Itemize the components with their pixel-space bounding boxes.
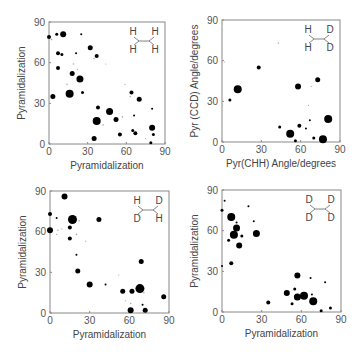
data-point (75, 52, 77, 54)
data-point (68, 215, 77, 224)
data-point (96, 105, 100, 109)
data-point (236, 243, 242, 249)
data-point (137, 97, 142, 102)
y-tick-label: 0 (40, 308, 46, 319)
data-point (320, 309, 323, 312)
data-point (145, 138, 146, 139)
data-point (57, 230, 59, 232)
data-point (278, 126, 281, 129)
data-point (125, 300, 126, 301)
data-point (114, 117, 119, 122)
data-points (47, 193, 166, 313)
data-point (76, 234, 78, 236)
x-tick-label: 60 (296, 314, 308, 325)
data-point (80, 33, 82, 35)
data-point (161, 294, 166, 299)
data-point (324, 115, 332, 123)
data-point (118, 274, 119, 275)
panel-HH-HH: 03060900306090PyramidalizationPyramidali… (16, 17, 171, 172)
data-point (293, 287, 296, 290)
data-point (294, 139, 297, 142)
data-point (247, 205, 249, 207)
atom-label: H (304, 42, 311, 53)
data-point (56, 66, 60, 70)
data-point (300, 292, 308, 300)
data-point (78, 220, 80, 222)
data-point (227, 213, 235, 221)
data-point (51, 39, 53, 41)
y-tick-label: 90 (34, 17, 46, 28)
x-tick-label: 90 (335, 314, 347, 325)
y-tick-label: 60 (207, 225, 219, 236)
x-tick-label: 30 (84, 315, 96, 326)
x-tick-label: 60 (121, 146, 133, 157)
y-tick-label: 60 (34, 57, 46, 68)
data-point (291, 302, 294, 305)
data-point (68, 226, 72, 230)
data-point (122, 116, 124, 118)
y-tick-label: 30 (34, 98, 46, 109)
y-tick-label: 0 (212, 307, 218, 318)
y-axis-label: Pyramidalization (17, 215, 28, 288)
x-axis-label: Pyramidalization (73, 329, 146, 340)
data-point (224, 200, 226, 202)
data-point (85, 241, 86, 242)
data-point (143, 308, 148, 313)
data-point (93, 58, 95, 60)
data-point (128, 307, 134, 313)
data-point (93, 117, 101, 125)
plot-frame (50, 191, 169, 313)
data-point (75, 268, 80, 273)
data-point (312, 136, 315, 139)
molecule-diagram: DDDD (305, 194, 334, 223)
x-axis-label: Pyramidalization (70, 160, 143, 171)
data-point (143, 292, 145, 294)
data-point (149, 141, 152, 144)
data-point (105, 63, 106, 64)
data-point (253, 220, 255, 222)
data-point (286, 130, 294, 138)
atom-label: H (129, 44, 136, 55)
x-tick-label: 60 (295, 144, 307, 155)
data-point (106, 108, 113, 115)
panel-HH-DD: 03060900306090Pyr(CHH) Angle/degreesPyr … (189, 15, 346, 170)
x-tick-label: 30 (256, 144, 268, 155)
data-point (151, 108, 153, 110)
y-axis-label: Pyramidalization (189, 214, 200, 287)
data-point (81, 91, 84, 94)
data-point (118, 133, 122, 137)
data-point (221, 209, 224, 212)
data-point (47, 35, 51, 39)
atom-label: H (133, 195, 140, 206)
data-point (310, 277, 312, 279)
data-point (56, 217, 58, 219)
x-axis-label: Pyramidalization (245, 328, 318, 339)
data-point (70, 71, 75, 76)
data-point (66, 84, 68, 86)
data-points (221, 200, 332, 312)
atom-label: H (155, 213, 162, 224)
data-point (329, 306, 332, 309)
x-tick-label: 30 (82, 146, 94, 157)
data-point (73, 63, 75, 65)
data-point (234, 85, 242, 93)
figure: 03060900306090PyramidalizationPyramidali… (0, 0, 364, 359)
molecule-diagram: HHHH (129, 26, 158, 55)
data-point (105, 284, 107, 286)
data-point (60, 53, 63, 56)
atom-label: H (129, 26, 136, 37)
data-point (311, 293, 313, 295)
y-axis-label: Pyr (CCD) Angle/degrees (189, 25, 200, 138)
y-tick-label: 30 (35, 267, 47, 278)
data-point (92, 136, 97, 141)
atom-label: H (151, 26, 158, 37)
data-point (77, 69, 78, 70)
x-tick-label: 90 (334, 144, 346, 155)
data-point (87, 282, 93, 288)
data-point (120, 289, 125, 294)
data-point (224, 61, 225, 62)
data-point (142, 304, 144, 306)
data-point (221, 265, 223, 267)
data-point (266, 301, 270, 305)
x-tick-label: 0 (47, 315, 53, 326)
